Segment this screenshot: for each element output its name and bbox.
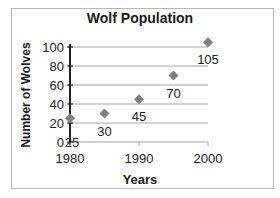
y-tick-label: 20 — [50, 116, 64, 131]
y-tick-label: 0 — [57, 135, 64, 150]
data-label: 70 — [166, 86, 180, 101]
data-point-marker — [169, 71, 179, 81]
y-tick-label: 40 — [50, 97, 64, 112]
x-tick-label: 1990 — [125, 151, 154, 166]
data-label: 105 — [197, 52, 219, 67]
y-tick-labels: 020406080100 — [42, 40, 64, 150]
plot-area: 020406080100 198019902000 25304570105 — [0, 0, 280, 198]
x-tick-label: 2000 — [194, 151, 223, 166]
x-tick-labels: 198019902000 — [56, 151, 223, 166]
data-point-marker — [203, 37, 213, 47]
y-tick-label: 60 — [50, 78, 64, 93]
y-tick-label: 100 — [42, 40, 64, 55]
data-label: 25 — [65, 135, 79, 150]
data-label: 30 — [97, 124, 111, 139]
data-label: 45 — [132, 109, 146, 124]
y-tick-label: 80 — [50, 59, 64, 74]
axes — [67, 44, 208, 146]
data-point-marker — [134, 94, 144, 104]
data-point-marker — [65, 113, 75, 123]
x-tick-label: 1980 — [56, 151, 85, 166]
data-point-marker — [100, 109, 110, 119]
